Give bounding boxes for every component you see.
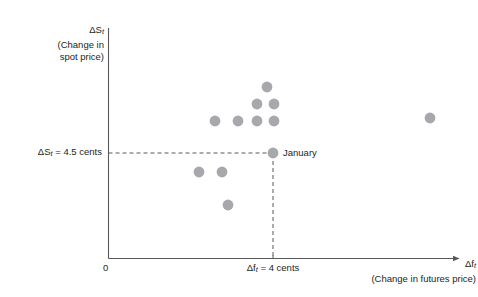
data-point	[223, 200, 234, 211]
data-point	[217, 167, 228, 178]
y-axis-subscript: t	[102, 27, 104, 36]
x-axis-title-line1: Δft	[318, 258, 476, 273]
threshold-value-text: = 4.5 cents	[53, 146, 102, 157]
january-annotation-label: January	[283, 147, 317, 160]
data-points-group	[194, 82, 436, 211]
x-tick-value-text: = 4 cents	[258, 262, 299, 273]
data-point	[252, 116, 263, 127]
data-point	[425, 113, 436, 124]
data-point	[252, 99, 263, 110]
x-axis-title: Δft (Change in futures price)	[318, 258, 476, 285]
x-tick-delta-symbol: Δf	[247, 262, 256, 273]
futures-price-threshold-label: Δft = 4 cents	[218, 262, 328, 277]
y-axis-title-line2: (Change in	[0, 39, 104, 52]
spot-price-threshold-label: ΔSt = 4.5 cents	[0, 146, 102, 161]
data-point	[262, 82, 273, 93]
data-point	[269, 116, 280, 127]
y-axis-title-line1: ΔSt	[0, 24, 104, 39]
data-point	[269, 99, 280, 110]
scatter-plot-figure: ΔSt (Change in spot price) ΔSt = 4.5 cen…	[0, 0, 478, 297]
x-axis-title-line2: (Change in futures price)	[318, 273, 476, 286]
y-axis-title: ΔSt (Change in spot price)	[0, 24, 104, 64]
data-point	[210, 116, 221, 127]
threshold-delta-symbol: ΔS	[38, 146, 51, 157]
y-axis-title-line3: spot price)	[0, 51, 104, 64]
data-point-january	[268, 148, 279, 159]
data-point	[233, 116, 244, 127]
y-axis-delta-symbol: ΔS	[89, 24, 102, 35]
origin-label: 0	[103, 262, 108, 275]
x-axis-delta-symbol: Δf	[465, 258, 474, 269]
x-axis-subscript: t	[474, 261, 476, 270]
data-point	[194, 167, 205, 178]
